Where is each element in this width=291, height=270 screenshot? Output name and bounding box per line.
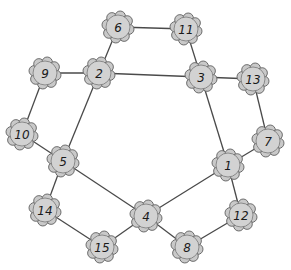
node-5: 5 xyxy=(47,145,79,177)
node-label: 8 xyxy=(183,241,191,255)
node-label: 12 xyxy=(233,209,248,223)
node-10: 10 xyxy=(6,118,38,150)
node-1: 1 xyxy=(212,149,244,181)
node-14: 14 xyxy=(29,194,61,226)
node-8: 8 xyxy=(171,231,203,263)
node-label: 11 xyxy=(178,23,193,37)
node-label: 1 xyxy=(224,159,232,173)
node-3: 3 xyxy=(185,61,217,93)
node-12: 12 xyxy=(225,199,257,231)
node-6: 6 xyxy=(102,11,134,43)
node-label: 3 xyxy=(197,71,205,85)
node-9: 9 xyxy=(29,57,61,89)
node-11: 11 xyxy=(170,13,202,45)
node-label: 6 xyxy=(114,21,122,35)
node-15: 15 xyxy=(86,231,118,263)
node-label: 10 xyxy=(14,128,30,142)
node-label: 15 xyxy=(94,241,109,255)
node-label: 4 xyxy=(142,210,150,224)
node-label: 9 xyxy=(41,67,49,81)
nodes-layer: 123456789101112131415 xyxy=(6,11,284,263)
node-13: 13 xyxy=(237,63,269,95)
edge-5-4 xyxy=(63,161,146,216)
node-label: 2 xyxy=(95,67,103,81)
node-label: 5 xyxy=(59,155,67,169)
node-2: 2 xyxy=(83,57,115,89)
node-label: 7 xyxy=(264,135,272,149)
graph-diagram: 123456789101112131415 xyxy=(0,0,291,270)
node-4: 4 xyxy=(130,200,162,232)
node-label: 13 xyxy=(245,73,260,87)
node-7: 7 xyxy=(252,125,284,157)
node-label: 14 xyxy=(37,204,52,218)
